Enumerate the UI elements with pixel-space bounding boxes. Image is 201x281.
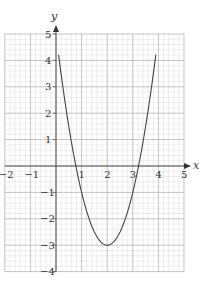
svg-text:4: 4: [155, 169, 161, 180]
svg-text:5: 5: [45, 29, 51, 40]
svg-text:−3: −3: [40, 240, 55, 251]
minor-grid: [5, 34, 184, 272]
svg-text:−2: −2: [0, 169, 14, 180]
svg-text:2: 2: [104, 169, 110, 180]
svg-text:1: 1: [79, 169, 85, 180]
svg-text:−2: −2: [40, 213, 55, 224]
major-grid: [5, 34, 184, 272]
y-axis-label: y: [50, 10, 58, 23]
svg-text:2: 2: [45, 108, 51, 119]
svg-text:5: 5: [181, 169, 187, 180]
parabola-chart: −2−11234554321−1−2−3−4 x y: [0, 0, 201, 281]
svg-text:1: 1: [45, 134, 51, 145]
svg-text:3: 3: [130, 169, 136, 180]
svg-text:3: 3: [45, 81, 51, 92]
svg-text:−1: −1: [24, 169, 39, 180]
svg-text:−4: −4: [40, 266, 55, 277]
x-axis-label: x: [193, 159, 200, 172]
svg-text:−1: −1: [40, 187, 55, 198]
svg-text:4: 4: [45, 55, 51, 66]
